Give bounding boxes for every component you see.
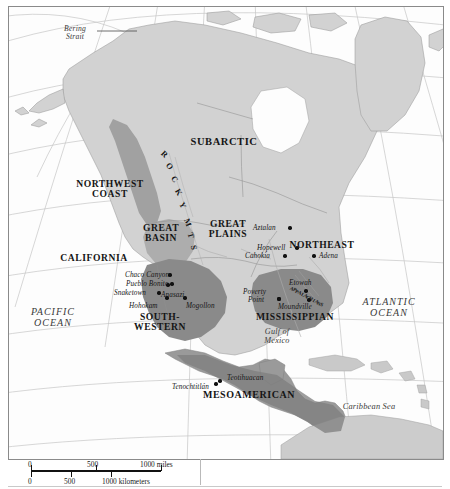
scale-km-0: 0 bbox=[28, 477, 32, 486]
map-graphic bbox=[9, 7, 443, 459]
site-marker-teotihuacan bbox=[218, 379, 221, 382]
site-marker-anasazi bbox=[166, 283, 169, 286]
site-marker-aztalan bbox=[288, 226, 291, 229]
site-marker-hopewell bbox=[295, 246, 298, 249]
scale-miles-1000: 1000 miles bbox=[140, 460, 173, 469]
site-marker-etowah bbox=[304, 289, 307, 292]
site-marker-snaketown bbox=[157, 291, 160, 294]
scale-miles-500: 500 bbox=[87, 460, 98, 469]
site-marker-mogollon bbox=[183, 296, 186, 299]
scale-bar: 0 500 1000 miles 0 500 1000 kilometers bbox=[22, 459, 192, 485]
scale-miles-0: 0 bbox=[28, 460, 32, 469]
site-marker-moundville bbox=[307, 298, 310, 301]
bottom-rule bbox=[8, 486, 442, 487]
scale-km-1000: 1000 kilometers bbox=[102, 477, 150, 486]
site-marker-cahokia bbox=[283, 254, 286, 257]
site-marker-tenochtitlan bbox=[214, 382, 217, 385]
scale-km-500: 500 bbox=[64, 477, 75, 486]
site-marker-hohokam bbox=[165, 296, 168, 299]
site-marker-pueblo-bonito bbox=[170, 282, 173, 285]
map-figure: SUBARCTICNORTHWESTCOASTGREATBASINCALIFOR… bbox=[0, 0, 450, 489]
site-marker-adena bbox=[312, 254, 315, 257]
site-marker-point bbox=[277, 297, 280, 300]
site-marker-chaco-canyon bbox=[168, 273, 171, 276]
map-frame: SUBARCTICNORTHWESTCOASTGREATBASINCALIFOR… bbox=[8, 6, 444, 460]
scale-divider bbox=[200, 459, 201, 485]
